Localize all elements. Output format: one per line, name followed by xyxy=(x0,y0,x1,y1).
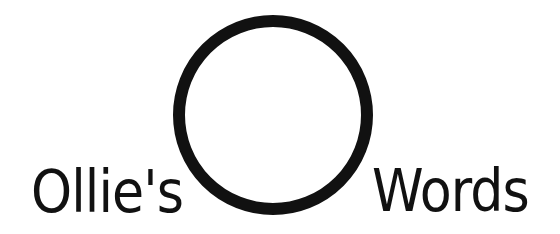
ollies-words-logo: Ollie's Words xyxy=(0,0,560,234)
logo-word-right: Words xyxy=(372,162,529,220)
circle-ring-icon xyxy=(173,15,373,215)
logo-word-left: Ollie's xyxy=(31,163,183,221)
